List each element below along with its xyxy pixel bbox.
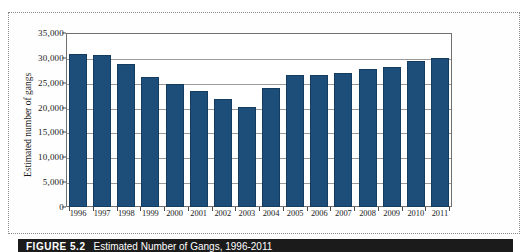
x-axis-tick-label: 2001 xyxy=(190,209,208,218)
x-axis-tick-label: 2003 xyxy=(238,209,256,218)
bar xyxy=(93,55,111,207)
x-axis-tickmark xyxy=(93,207,94,211)
y-axis-tickmark xyxy=(62,57,66,58)
x-axis-tick-label: 2007 xyxy=(334,209,352,218)
x-axis-tick-label: 2005 xyxy=(286,209,304,218)
x-axis-tickmark xyxy=(69,207,70,211)
y-axis-tick-label: 15,000 xyxy=(2,127,64,137)
x-axis-tick-label: 2004 xyxy=(262,209,280,218)
bar xyxy=(431,58,449,207)
bar xyxy=(238,107,256,207)
figure-caption-label: FIGURE 5.2 xyxy=(26,241,85,252)
x-axis-tick-label: 2002 xyxy=(214,209,232,218)
x-axis-tickmark xyxy=(378,207,379,211)
x-axis-tick-label: 2000 xyxy=(166,209,184,218)
y-axis-tick-label: 25,000 xyxy=(2,78,64,88)
x-axis-tickmark xyxy=(449,207,450,211)
x-axis-tickmark xyxy=(307,207,308,211)
y-axis-tick-label: 0 xyxy=(2,202,64,212)
bar xyxy=(359,69,377,207)
x-axis-tickmark xyxy=(330,207,331,211)
bar xyxy=(383,67,401,207)
y-axis-tickmark xyxy=(62,182,66,183)
x-axis-tickmark xyxy=(354,207,355,211)
x-axis-tickmark xyxy=(259,207,260,211)
bar xyxy=(141,77,159,207)
bar xyxy=(214,99,232,207)
bar xyxy=(407,61,425,207)
y-axis-tick-label: 35,000 xyxy=(2,28,64,38)
bar xyxy=(69,54,87,207)
x-axis-tick-label: 2009 xyxy=(383,209,401,218)
bar xyxy=(262,88,280,207)
figure-caption-bar: FIGURE 5.2Estimated Number of Gangs, 199… xyxy=(18,239,513,252)
y-axis-tickmark xyxy=(62,107,66,108)
x-axis-tickmark xyxy=(212,207,213,211)
x-axis-tick-label: 2008 xyxy=(359,209,377,218)
figure-caption-title: Estimated Number of Gangs, 1996-2011 xyxy=(85,241,272,252)
x-axis-tickmark xyxy=(164,207,165,211)
bar xyxy=(166,84,184,207)
figure-caption: FIGURE 5.2Estimated Number of Gangs, 199… xyxy=(26,241,272,252)
x-axis-tick-label: 2011 xyxy=(431,209,449,218)
y-axis-tickmark xyxy=(62,157,66,158)
x-axis-tick-label: 1998 xyxy=(117,209,135,218)
x-axis-tickmark xyxy=(402,207,403,211)
bar xyxy=(310,75,328,207)
y-axis-tickmark xyxy=(62,33,66,34)
x-axis-tickmark xyxy=(235,207,236,211)
bar xyxy=(190,91,208,207)
x-axis-tick-label: 2010 xyxy=(407,209,425,218)
x-axis-tick-label: 1997 xyxy=(93,209,111,218)
bar-chart: 05,00010,00015,00020,00025,00030,00035,0… xyxy=(0,0,531,252)
bar xyxy=(334,73,352,207)
bar xyxy=(286,75,304,207)
x-axis-tick-label: 1999 xyxy=(141,209,159,218)
y-axis-title: Estimated number of gangs xyxy=(23,45,33,205)
x-axis-tickmark xyxy=(425,207,426,211)
y-axis-tick-label: 10,000 xyxy=(2,152,64,162)
x-axis-tickmark xyxy=(188,207,189,211)
x-axis-tickmark xyxy=(283,207,284,211)
y-axis-tickmark xyxy=(62,132,66,133)
x-axis-tickmark xyxy=(140,207,141,211)
bars-group xyxy=(66,33,452,207)
x-axis-tick-label: 1996 xyxy=(69,209,87,218)
y-axis-tick-label: 5,000 xyxy=(2,177,64,187)
x-axis-tick-label: 2006 xyxy=(310,209,328,218)
x-axis-tickmark xyxy=(117,207,118,211)
y-axis-tick-label: 20,000 xyxy=(2,103,64,113)
y-axis-tickmark xyxy=(62,207,66,208)
bar xyxy=(117,64,135,207)
y-axis-tick-label: 30,000 xyxy=(2,53,64,63)
figure-container: 05,00010,00015,00020,00025,00030,00035,0… xyxy=(0,0,531,252)
y-axis-tickmark xyxy=(62,82,66,83)
